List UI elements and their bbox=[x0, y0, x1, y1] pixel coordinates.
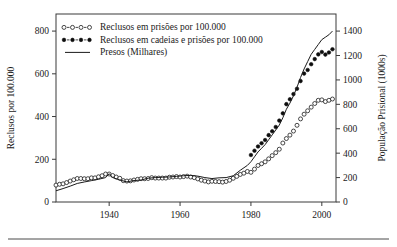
data-point-open bbox=[284, 137, 288, 141]
data-point-open bbox=[252, 167, 256, 171]
right-axis-tick-label: 200 bbox=[343, 173, 358, 183]
data-point-open bbox=[291, 129, 295, 133]
data-point-open bbox=[267, 157, 271, 161]
data-point-filled bbox=[320, 50, 324, 54]
data-point-filled bbox=[263, 138, 267, 142]
data-point-filled bbox=[253, 149, 257, 153]
data-point-filled bbox=[249, 153, 253, 157]
data-point-open bbox=[263, 160, 267, 164]
right-axis-tick-label: 400 bbox=[343, 149, 358, 159]
series-line-presos bbox=[56, 31, 332, 191]
left-axis-tick-label: 800 bbox=[35, 26, 50, 36]
right-axis-tick-label: 1200 bbox=[343, 51, 362, 61]
legend-marker-filled bbox=[62, 38, 66, 42]
legend-marker-filled bbox=[71, 38, 75, 42]
data-point-open bbox=[277, 147, 281, 151]
series-2 bbox=[56, 31, 332, 191]
legend-label-0: Reclusos em prisões por 100.000 bbox=[100, 22, 226, 32]
data-point-filled bbox=[260, 141, 264, 145]
right-axis-tick-label: 1400 bbox=[343, 26, 362, 36]
data-point-filled bbox=[306, 68, 310, 72]
legend-marker-filled bbox=[79, 38, 83, 42]
legend-marker-open bbox=[71, 25, 75, 29]
left-axis-tick-label: 400 bbox=[35, 112, 50, 122]
data-point-open bbox=[288, 133, 292, 137]
right-axis-tick-label: 0 bbox=[343, 197, 348, 207]
left-axis-tick-label: 600 bbox=[35, 69, 50, 79]
legend-item-1 bbox=[62, 38, 91, 42]
data-point-open bbox=[249, 170, 253, 174]
right-axis-tick-label: 600 bbox=[343, 124, 358, 134]
data-point-open bbox=[299, 117, 303, 121]
data-point-filled bbox=[285, 102, 289, 106]
legend-label-1: Reclusos em cadeias e prisões por 100.00… bbox=[100, 35, 263, 45]
chart-canvas: 0200400600800Reclusos por 100.0000200400… bbox=[0, 0, 397, 247]
data-point-open bbox=[313, 102, 317, 106]
legend-marker-open bbox=[79, 25, 83, 29]
legend-item-0 bbox=[62, 25, 92, 29]
data-point-open bbox=[274, 151, 278, 155]
x-axis-tick-label: 1960 bbox=[171, 210, 190, 220]
series-0 bbox=[54, 97, 334, 187]
data-point-open bbox=[330, 97, 334, 101]
right-axis-tick-label: 1000 bbox=[343, 75, 362, 85]
data-point-open bbox=[295, 123, 299, 127]
data-point-filled bbox=[331, 47, 335, 51]
legend-marker-open bbox=[62, 25, 66, 29]
data-point-filled bbox=[256, 145, 260, 149]
data-point-filled bbox=[267, 133, 271, 137]
data-point-open bbox=[306, 109, 310, 113]
left-axis-tick-label: 200 bbox=[35, 155, 50, 165]
data-point-open bbox=[281, 141, 285, 145]
data-point-open bbox=[309, 105, 313, 109]
prison-population-chart: 0200400600800Reclusos por 100.0000200400… bbox=[0, 0, 397, 247]
data-point-open bbox=[302, 112, 306, 116]
left-axis-title: Reclusos por 100.000 bbox=[6, 66, 16, 149]
left-axis-tick-label: 0 bbox=[44, 197, 49, 207]
x-axis-tick-label: 1940 bbox=[100, 210, 119, 220]
right-axis-tick-label: 800 bbox=[343, 100, 358, 110]
data-point-filled bbox=[309, 62, 313, 66]
x-axis-tick-label: 1980 bbox=[241, 210, 260, 220]
data-point-filled bbox=[324, 53, 328, 57]
legend-marker-open bbox=[88, 25, 92, 29]
data-point-filled bbox=[327, 51, 331, 55]
x-axis-tick-label: 2000 bbox=[312, 210, 331, 220]
right-axis-title: População Prisional (1000s) bbox=[377, 54, 388, 161]
legend-label-2: Presos (Milhares) bbox=[100, 47, 167, 58]
data-point-filled bbox=[313, 57, 317, 61]
data-point-filled bbox=[316, 53, 320, 57]
data-point-open bbox=[270, 154, 274, 158]
legend-marker-filled bbox=[88, 38, 92, 42]
